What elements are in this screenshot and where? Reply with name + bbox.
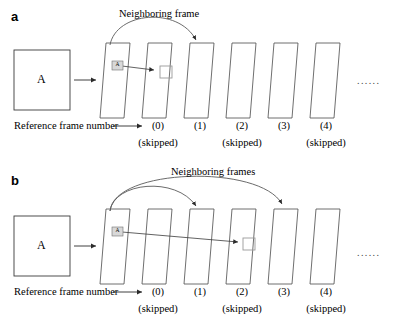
frame-tag-label-a: A xyxy=(112,62,123,68)
skipped-label-0-a: (skipped) xyxy=(134,137,182,148)
frame-3 xyxy=(226,209,256,284)
frame-number-2-a: (2) xyxy=(226,120,258,131)
source-block-label-a: A xyxy=(37,73,46,85)
panel-a: a xyxy=(0,0,400,166)
skipped-label-2-a: (skipped) xyxy=(218,137,266,148)
neighbor-arc-0-1 xyxy=(110,17,196,45)
frame-number-0-a: (0) xyxy=(142,120,174,131)
skipped-label-2-b: (skipped) xyxy=(218,303,266,314)
frame-5 xyxy=(310,209,340,284)
frame-0 xyxy=(100,43,130,118)
frame-number-3-b: (3) xyxy=(268,286,300,297)
frame-number-4-b: (4) xyxy=(310,286,342,297)
frame-1 xyxy=(142,43,172,118)
frame-0 xyxy=(100,209,130,284)
frame-5 xyxy=(310,43,340,118)
frame-number-1-b: (1) xyxy=(184,286,216,297)
frame-number-2-b: (2) xyxy=(226,286,258,297)
frame-1 xyxy=(142,209,172,284)
skipped-label-0-b: (skipped) xyxy=(134,303,182,314)
frame-number-3-a: (3) xyxy=(268,120,300,131)
frame-number-0-b: (0) xyxy=(142,286,174,297)
frame-tag-label-a: A xyxy=(112,228,123,234)
neighboring-frames-annotation-b: Neighboring frames xyxy=(171,166,255,177)
frame-3 xyxy=(226,43,256,118)
panel-b: b xyxy=(0,166,400,332)
frame-2 xyxy=(184,43,214,118)
continuation-ellipsis-a: ...... xyxy=(357,76,380,86)
motion-vector-line xyxy=(122,232,238,242)
reference-frame-number-label-a: Reference frame number xyxy=(14,120,118,131)
frame-2 xyxy=(184,209,214,284)
skipped-label-4-a: (skipped) xyxy=(302,137,350,148)
motion-vector-line xyxy=(122,66,154,70)
continuation-ellipsis-b: ...... xyxy=(357,248,380,258)
frame-4 xyxy=(268,43,298,118)
frame-4 xyxy=(268,209,298,284)
reference-frame-number-label-b: Reference frame number xyxy=(14,286,118,297)
neighboring-frame-annotation-a: Neighboring frame xyxy=(119,8,199,19)
frame-number-4-a: (4) xyxy=(310,120,342,131)
frame-number-1-a: (1) xyxy=(184,120,216,131)
figure-canvas: a xyxy=(0,0,400,332)
source-block-label-a: A xyxy=(37,239,46,251)
neighbor-arc-0-1 xyxy=(110,186,196,211)
skipped-label-4-b: (skipped) xyxy=(302,303,350,314)
